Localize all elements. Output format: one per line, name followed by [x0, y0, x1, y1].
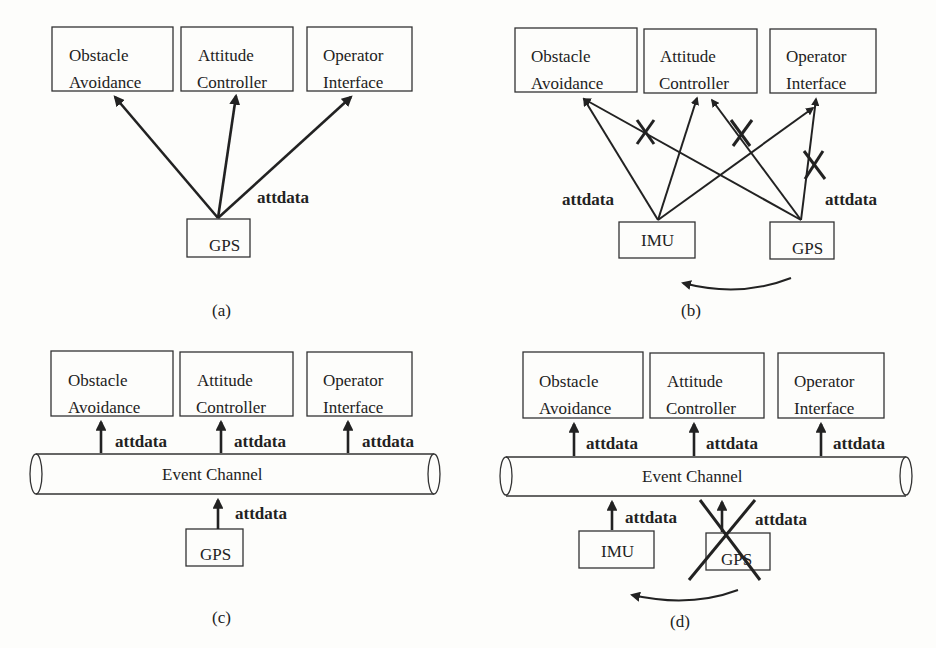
edge-label: attdata	[257, 188, 309, 207]
box-label-line2: Avoidance	[69, 73, 141, 92]
edge-label: attdata	[115, 432, 167, 451]
box-gps: GPS	[187, 219, 250, 257]
figure-canvas: Obstacle Avoidance Attitude Controller O…	[0, 0, 936, 648]
box-operator-interface: Operator Interface	[770, 29, 876, 93]
box-label-line1: Attitude	[198, 46, 254, 65]
edge-label: attdata	[235, 504, 287, 523]
box-label: IMU	[641, 231, 674, 250]
arrows-imu-to-consumers	[584, 98, 813, 220]
box-label-line1: Obstacle	[539, 372, 598, 391]
box-label-line1: Operator	[794, 372, 855, 391]
box-label: GPS	[200, 545, 231, 564]
box-label-line2: Avoidance	[68, 398, 140, 417]
panel-caption: (b)	[681, 301, 701, 320]
box-imu: IMU	[619, 222, 695, 258]
panel-d: Obstacle Avoidance Attitude Controller O…	[500, 352, 912, 631]
box-label-line1: Operator	[323, 371, 384, 390]
box-label-line1: Attitude	[660, 47, 716, 66]
arrows-gps-to-consumers	[115, 96, 351, 218]
edge-label: attdata	[825, 190, 877, 209]
box-attitude-controller: Attitude Controller	[181, 27, 293, 92]
panel-caption: (c)	[212, 608, 231, 627]
panel-c: Obstacle Avoidance Attitude Controller O…	[30, 351, 440, 627]
channel-label: Event Channel	[642, 467, 743, 486]
box-label-line2: Controller	[196, 398, 266, 417]
panel-a: Obstacle Avoidance Attitude Controller O…	[52, 27, 412, 320]
box-label-line2: Controller	[666, 399, 736, 418]
box-gps: GPS	[186, 529, 243, 566]
box-attitude-controller: Attitude Controller	[644, 29, 757, 93]
box-label: IMU	[601, 542, 634, 561]
edge-label: attdata	[234, 432, 286, 451]
event-channel: Event Channel	[500, 457, 912, 496]
box-label-line1: Obstacle	[68, 371, 127, 390]
box-label-line2: Interface	[794, 399, 854, 418]
box-obstacle-avoidance: Obstacle Avoidance	[523, 352, 643, 418]
edge-label: attdata	[755, 510, 807, 529]
box-attitude-controller: Attitude Controller	[180, 352, 293, 417]
panel-caption: (d)	[670, 612, 690, 631]
box-label-line1: Obstacle	[531, 47, 590, 66]
box-label-line1: Operator	[323, 46, 384, 65]
box-label-line2: Interface	[323, 398, 383, 417]
edge-label: attdata	[625, 508, 677, 527]
cross-icon	[637, 120, 654, 144]
arrow-icon	[115, 97, 218, 218]
box-attitude-controller: Attitude Controller	[650, 353, 764, 418]
channel-label: Event Channel	[162, 465, 263, 484]
box-label: GPS	[209, 236, 240, 255]
box-obstacle-avoidance: Obstacle Avoidance	[515, 28, 637, 93]
box-label-line2: Interface	[323, 73, 383, 92]
box-imu: IMU	[579, 531, 654, 568]
arrows-gps-to-consumers-crossed	[584, 99, 816, 220]
edge-label: attdata	[706, 434, 758, 453]
panel-b: Obstacle Avoidance Attitude Controller O…	[515, 28, 877, 320]
box-operator-interface: Operator Interface	[307, 27, 412, 92]
box-label-line1: Attitude	[197, 371, 253, 390]
box-label: GPS	[792, 239, 823, 258]
box-label-line2: Controller	[659, 74, 729, 93]
box-label-line1: Attitude	[667, 372, 723, 391]
box-operator-interface: Operator Interface	[778, 353, 884, 418]
panel-caption: (a)	[212, 301, 231, 320]
box-label-line2: Interface	[786, 74, 846, 93]
edge-label: attdata	[586, 434, 638, 453]
event-channel: Event Channel	[30, 454, 440, 494]
switchover-arrow-icon	[683, 278, 791, 289]
switchover-arrow-icon	[632, 590, 738, 600]
box-label-line2: Controller	[197, 73, 267, 92]
box-label: GPS	[721, 550, 752, 569]
box-label-line1: Obstacle	[69, 46, 128, 65]
arrow-icon	[218, 96, 236, 218]
box-obstacle-avoidance: Obstacle Avoidance	[52, 27, 173, 92]
edge-label: attdata	[562, 190, 614, 209]
cross-icon	[731, 120, 752, 146]
arrow-icon	[584, 99, 801, 220]
box-obstacle-avoidance: Obstacle Avoidance	[51, 351, 173, 417]
arrow-icon	[712, 100, 801, 220]
box-gps: GPS	[770, 222, 834, 259]
box-label-line2: Avoidance	[531, 74, 603, 93]
box-label-line2: Avoidance	[539, 399, 611, 418]
box-label-line1: Operator	[786, 47, 847, 66]
edge-label: attdata	[833, 434, 885, 453]
box-operator-interface: Operator Interface	[307, 352, 412, 417]
edge-label: attdata	[362, 432, 414, 451]
